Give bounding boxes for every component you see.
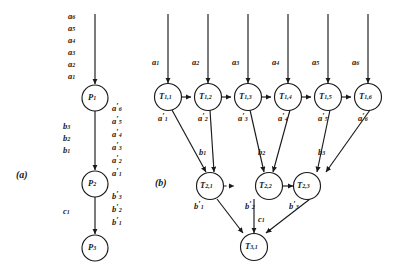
node-t21-label: T2,1 [200, 181, 213, 190]
node-sub: 1,1 [164, 94, 172, 100]
figure-container: (a) P1 P2 P3 a6 a5 a4 a3 a2 a1 b3 b2 b1 … [0, 0, 402, 276]
token-sub: 5 [316, 60, 319, 66]
token-a3-prime-b: a′3 [238, 114, 248, 123]
prime-mark: ′ [162, 111, 164, 121]
edge-t23-to-t31 [266, 199, 310, 233]
token-a1-prime: a′1 [112, 169, 122, 178]
token-a4-prime-b: a′4 [278, 114, 288, 123]
node-sub: 1,6 [364, 94, 372, 100]
node-t16-label: T1,6 [359, 92, 372, 101]
prime-mark: ′ [116, 140, 118, 150]
node-t14-label: T1,4 [279, 92, 292, 101]
token-a4-input-b: a4 [272, 58, 279, 67]
node-p3-sub: 3 [93, 245, 96, 251]
token-sub: 3 [67, 124, 70, 130]
token-a3-input: a3 [68, 48, 75, 57]
node-t15-label: T1,5 [319, 92, 332, 101]
token-b3-left: b3 [63, 122, 70, 131]
token-a4-prime: a′4 [112, 130, 122, 139]
token-a6-prime: a′6 [112, 104, 122, 113]
panel-b-nodes [155, 84, 382, 261]
token-sub: 5 [72, 26, 75, 32]
token-b3-input-b: b3 [318, 148, 325, 157]
token-sub: 5 [325, 116, 328, 122]
token-a5-prime: a′5 [112, 117, 122, 126]
prime-mark: ′ [198, 199, 200, 209]
token-c1-sink: c1 [258, 215, 265, 224]
prime-mark: ′ [249, 199, 251, 209]
token-sub: 1 [165, 116, 168, 122]
node-sub: 2,3 [302, 183, 310, 189]
token-sub: 1 [119, 220, 122, 226]
token-sub: 3 [236, 60, 239, 66]
token-sub: 1 [119, 171, 122, 177]
node-sub: 1,4 [284, 94, 292, 100]
prime-mark: ′ [116, 101, 118, 111]
token-a5-input-b: a5 [312, 58, 319, 67]
node-sub: 1,3 [244, 94, 252, 100]
token-b2-left: b2 [63, 134, 70, 143]
node-sub: 1,5 [324, 94, 332, 100]
prime-mark: ′ [362, 111, 364, 121]
prime-mark: ′ [116, 153, 118, 163]
node-sub: 3,1 [250, 244, 258, 250]
token-sub: 3 [72, 50, 75, 56]
token-a2-prime-b: a′2 [198, 114, 208, 123]
token-sub: 2 [196, 60, 199, 66]
token-b2-input-b: b2 [258, 148, 265, 157]
token-a6-input: a6 [68, 12, 75, 21]
token-b2-prime-b: b′2 [245, 202, 255, 211]
node-t31-label: T3,1 [245, 242, 258, 251]
token-sub: 6 [356, 60, 359, 66]
token-sub: 4 [285, 116, 288, 122]
token-b3-prime-b: b′3 [289, 202, 299, 211]
node-t12-label: T1,2 [199, 92, 212, 101]
token-a5-prime-b: a′5 [318, 114, 328, 123]
token-sub: 3 [296, 204, 299, 210]
token-sub: 6 [72, 14, 75, 20]
prime-mark: ′ [202, 111, 204, 121]
node-sub: 2,2 [264, 183, 272, 189]
token-a6-prime-b: a′6 [358, 114, 368, 123]
panel-a-label: (a) [16, 170, 28, 180]
prime-mark: ′ [116, 114, 118, 124]
token-a1-prime-b: a′1 [158, 114, 168, 123]
token-sub: 3 [119, 194, 122, 200]
prime-mark: ′ [116, 166, 118, 176]
token-a6-input-b: a6 [352, 58, 359, 67]
token-sub: 6 [119, 106, 122, 112]
node-t11-label: T1,1 [159, 92, 172, 101]
node-t22-label: T2,2 [259, 181, 272, 190]
token-sub: 5 [119, 119, 122, 125]
token-b3-prime: b′3 [112, 192, 122, 201]
token-sub: 3 [322, 150, 325, 156]
token-a1-input-b: a1 [152, 58, 159, 67]
node-sub: 2,1 [205, 183, 213, 189]
token-b1-prime: b′1 [112, 218, 122, 227]
token-sub: 1 [156, 60, 159, 66]
token-sub: 1 [67, 209, 70, 215]
token-b2-prime: b′2 [112, 205, 122, 214]
node-p1-sub: 1 [93, 95, 96, 101]
token-sub: 1 [72, 74, 75, 80]
token-sub: 3 [245, 116, 248, 122]
node-p2-label: P2 [88, 179, 96, 188]
prime-mark: ′ [242, 111, 244, 121]
token-sub: 1 [201, 204, 204, 210]
token-sub: 2 [119, 207, 122, 213]
token-b1-prime-b: b′1 [194, 202, 204, 211]
token-b1-left: b1 [63, 146, 70, 155]
token-a2-prime: a′2 [112, 156, 122, 165]
token-sub: 6 [365, 116, 368, 122]
token-sub: 2 [72, 62, 75, 68]
node-t13-label: T1,3 [239, 92, 252, 101]
token-a4-input: a4 [68, 36, 75, 45]
edge-t21-to-t31 [217, 199, 243, 233]
node-t23-label: T2,3 [297, 181, 310, 190]
token-sub: 2 [205, 116, 208, 122]
token-a3-prime: a′3 [112, 143, 122, 152]
token-a5-input: a5 [68, 24, 75, 33]
token-c1-left: c1 [63, 207, 70, 216]
prime-mark: ′ [116, 215, 118, 225]
token-sub: 2 [262, 150, 265, 156]
